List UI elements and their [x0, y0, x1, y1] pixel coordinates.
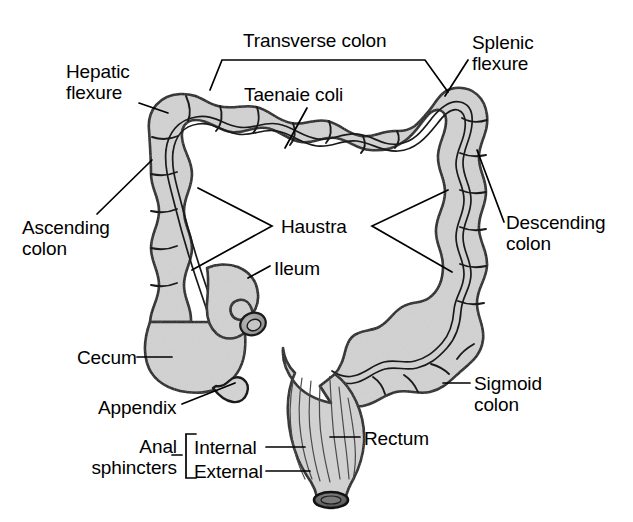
- label-rectum: Rectum: [364, 428, 429, 449]
- label-ileum: Ileum: [274, 258, 320, 279]
- label-ascending-colon: Ascending colon: [22, 217, 110, 259]
- label-cecum: Cecum: [77, 347, 137, 368]
- label-internal-sphincter: Internal: [194, 437, 257, 458]
- leader-ileum: [248, 266, 270, 278]
- label-anal-sphincters: Anal sphincters: [57, 436, 177, 478]
- label-appendix: Appendix: [98, 397, 176, 418]
- leader-ascending-colon: [97, 160, 152, 214]
- label-sigmoid-colon: Sigmoid colon: [474, 373, 542, 415]
- anal-opening-inner: [321, 496, 341, 504]
- label-descending-colon: Descending colon: [506, 212, 605, 254]
- label-hepatic-flexure: Hepatic flexure: [66, 61, 130, 103]
- label-haustra: Haustra: [281, 216, 347, 237]
- ileum: [207, 264, 269, 339]
- label-external-sphincter: External: [194, 461, 263, 482]
- label-taenaie-coli: Taenaie coli: [244, 84, 343, 105]
- leader-haustra-left: [192, 188, 272, 270]
- label-transverse-colon: Transverse colon: [243, 30, 386, 51]
- large-intestine-figure: Transverse colon Taenaie coli Hepatic fl…: [0, 0, 633, 522]
- label-splenic-flexure: Splenic flexure: [472, 32, 534, 74]
